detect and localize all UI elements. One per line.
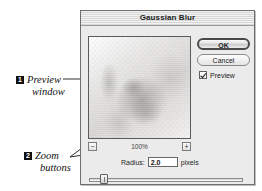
radius-slider-track[interactable]: [89, 178, 243, 182]
dialog-body: − 100% + OK Cancel Preview Radius: 2.0 p…: [81, 26, 254, 184]
annotation-zoom-buttons: 2 Zoom buttons: [24, 150, 71, 174]
annotation-label-zoom: Zoom: [35, 150, 59, 162]
annotation-preview-window: 1 Preview window: [16, 74, 65, 98]
zoom-in-button[interactable]: +: [182, 142, 191, 151]
annotation-line: 1 Preview: [16, 74, 65, 86]
gaussian-blur-dialog: Gaussian Blur − 100% + OK Cancel: [80, 10, 255, 185]
radius-units-label: pixels: [181, 159, 199, 166]
radius-input[interactable]: 2.0: [148, 157, 178, 167]
annotation-label-buttons: buttons: [24, 162, 71, 174]
screenshot-canvas: 1 Preview window 2 Zoom buttons Gaussian…: [0, 0, 262, 191]
cancel-button[interactable]: Cancel: [197, 54, 250, 66]
preview-scanline-overlay: [89, 37, 190, 138]
radius-label: Radius:: [121, 159, 145, 166]
dialog-button-column: OK Cancel Preview: [197, 38, 250, 79]
annotation-label-window: window: [16, 86, 65, 98]
annotation-label-preview: Preview: [27, 74, 61, 86]
annotation-line: 2 Zoom: [24, 150, 71, 162]
radius-field-row: Radius: 2.0 pixels: [121, 157, 199, 167]
preview-checkbox-row[interactable]: Preview: [199, 71, 250, 79]
radius-slider[interactable]: [89, 174, 243, 185]
preview-checkbox[interactable]: [199, 71, 207, 79]
preview-zoom-controls: − 100% +: [88, 142, 191, 152]
annotation-marker-1: 1: [16, 76, 24, 84]
zoom-level-label: 100%: [88, 143, 191, 150]
radius-slider-thumb[interactable]: [100, 174, 108, 184]
dialog-titlebar[interactable]: Gaussian Blur: [81, 11, 254, 26]
preview-window[interactable]: [88, 36, 191, 139]
dialog-title: Gaussian Blur: [81, 13, 254, 22]
ok-button[interactable]: OK: [197, 38, 250, 50]
preview-checkbox-label: Preview: [210, 72, 235, 79]
annotation-marker-2: 2: [24, 152, 32, 160]
